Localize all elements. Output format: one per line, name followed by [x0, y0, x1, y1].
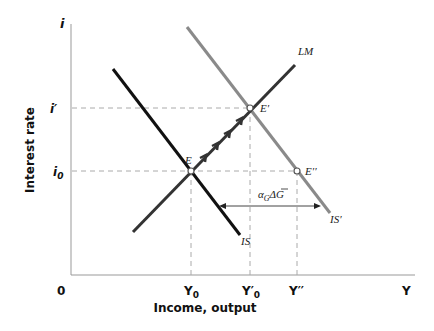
tick-y-double-prime: Y′′	[288, 284, 304, 298]
label-is-prime: IS′	[329, 213, 342, 225]
point-e-double-prime	[294, 168, 300, 174]
label-e: E	[184, 154, 192, 166]
y-axis-label: i	[60, 16, 65, 31]
tick-i-prime: i′	[50, 102, 58, 116]
label-lm: LM	[297, 45, 314, 57]
is-curve	[113, 69, 240, 235]
islm-diagram: E E′ E′′ LM IS IS′ αGΔG i Y 0 i′ i0 Y0 Y…	[0, 0, 434, 331]
x-axis-label: Y	[401, 284, 411, 298]
tick-y0: Y0	[183, 284, 199, 300]
label-is: IS	[240, 235, 251, 247]
point-e-prime	[247, 105, 253, 111]
tick-i0: i0	[53, 165, 63, 181]
label-e-double-prime: E′′	[304, 165, 317, 177]
x-axis-title: Income, output	[153, 301, 256, 315]
point-e	[188, 168, 194, 174]
origin-label: 0	[57, 284, 65, 298]
lm-curve	[133, 65, 295, 232]
label-e-prime: E′	[259, 102, 270, 114]
tick-y0-prime: Y′0	[241, 284, 260, 300]
y-axis-title: Interest rate	[23, 107, 37, 193]
shift-arrow-right-head-icon	[314, 203, 321, 209]
shift-label: αGΔG	[258, 188, 284, 203]
